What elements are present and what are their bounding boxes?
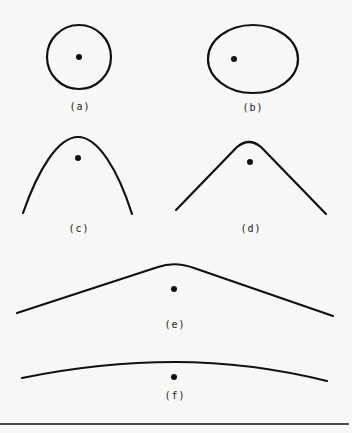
panel-b: (b): [208, 25, 298, 113]
panel-label: (b): [242, 102, 263, 113]
focus-dot: [76, 54, 82, 60]
panel-label: (a): [69, 101, 90, 112]
focus-dot: [247, 159, 253, 165]
focus-dot: [171, 374, 177, 380]
conic-sections-diagram: (a) (b) (c) (d) (e) (f): [0, 0, 352, 433]
hyperbola-curve: [176, 142, 326, 214]
focus-dot: [231, 56, 237, 62]
panel-a: (a): [47, 25, 111, 112]
panel-label: (c): [68, 223, 89, 234]
panel-d: (d): [176, 142, 326, 234]
focus-dot: [75, 155, 81, 161]
parabola-curve: [23, 137, 132, 214]
ellipse-curve: [208, 25, 298, 93]
panel-label: (e): [164, 319, 185, 330]
panel-label: (f): [164, 390, 185, 401]
panel-c: (c): [23, 137, 132, 234]
panel-label: (d): [240, 223, 261, 234]
focus-dot: [171, 286, 177, 292]
panel-e: (e): [17, 264, 333, 330]
panel-f: (f): [22, 362, 327, 401]
